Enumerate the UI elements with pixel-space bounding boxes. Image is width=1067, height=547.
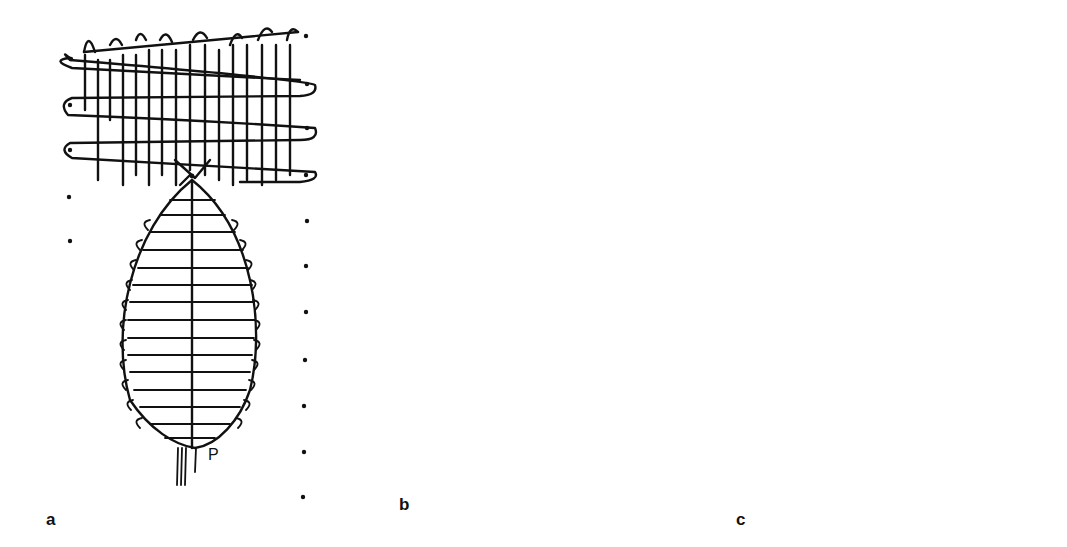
annotation-p: P	[208, 446, 219, 464]
panel-label-c: c	[736, 510, 745, 530]
panel-a-woven-band	[60, 28, 316, 499]
panel-label-b: b	[399, 495, 409, 515]
panel-label-a: a	[46, 510, 55, 530]
diagram-canvas	[0, 0, 1067, 547]
panel-a-ellipse	[120, 160, 259, 485]
